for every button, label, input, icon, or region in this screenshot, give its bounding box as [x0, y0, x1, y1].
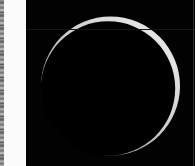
scan-line	[26, 29, 195, 30]
night-side-disk	[41, 21, 175, 155]
photo-frame	[26, 0, 195, 166]
white-margin	[4, 0, 26, 166]
crescent-graphic	[26, 0, 195, 166]
right-border	[193, 0, 194, 166]
